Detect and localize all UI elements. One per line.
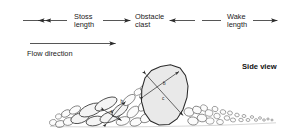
stoss-length-label-line1: Stoss [74, 12, 93, 21]
clast [220, 109, 227, 115]
clast [234, 113, 239, 117]
clast [230, 118, 236, 123]
diagram-canvas: Stoss length Obstacle clast Wake length … [0, 0, 300, 134]
stoss-ramp-clasts [69, 83, 153, 127]
clast-deposit-drawing: b c b c [49, 65, 276, 128]
clast [258, 117, 261, 120]
side-view-label: Side view [242, 62, 277, 71]
clast [242, 114, 246, 118]
clast [55, 113, 63, 120]
stoss-clast-b-label: b [121, 99, 124, 104]
clast [271, 119, 273, 121]
wake-zone-clasts [183, 104, 273, 126]
clast [216, 119, 223, 125]
stoss-length-label-line2: length [74, 20, 94, 29]
obstacle-clast-label-line2: clast [135, 20, 150, 29]
clast [250, 115, 254, 118]
clast [224, 115, 230, 121]
clast [239, 118, 244, 122]
clast [246, 118, 250, 121]
wake-length-label-line2: length [227, 20, 247, 29]
obstacle-clast-b-label: b [163, 81, 166, 86]
clast [254, 119, 257, 122]
clast [206, 117, 215, 124]
side-view-diagram: Stoss length Obstacle clast Wake length … [0, 0, 300, 134]
flow-direction-indicator: Flow direction [27, 44, 116, 58]
clast [227, 110, 233, 115]
clast [267, 118, 270, 120]
clast [263, 119, 266, 121]
wake-length-label-line1: Wake [227, 12, 246, 21]
clast [213, 113, 220, 120]
flow-direction-label: Flow direction [27, 49, 73, 58]
obstacle-clast-label-line1: Obstacle [135, 12, 164, 21]
